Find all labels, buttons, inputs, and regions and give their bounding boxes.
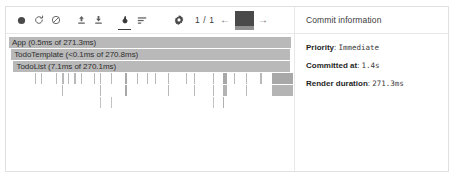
flamegraph-bar-todotemplate[interactable]: TodoTemplate (<0.1ms of 270.8ms) <box>11 49 291 60</box>
gear-icon[interactable] <box>170 9 187 31</box>
next-commit-button[interactable]: → <box>256 9 271 31</box>
flamegraph-bar[interactable] <box>147 85 148 96</box>
flamegraph-bar[interactable] <box>94 73 96 84</box>
flamegraph-bar[interactable] <box>74 85 75 96</box>
devtools-panel: 1 / 1 ← → Commit information App (0.5ms … <box>5 6 449 172</box>
react-devtools-profiler: 1 / 1 ← → Commit information App (0.5ms … <box>0 0 454 178</box>
reload-and-profile-button[interactable] <box>30 9 47 31</box>
flamegraph-bar[interactable] <box>191 85 192 96</box>
flamegraph-bar[interactable] <box>194 73 195 84</box>
flamegraph-bar[interactable] <box>100 73 102 84</box>
flamegraph-row: App (0.5ms of 271.3ms) <box>6 37 294 48</box>
flamegraph-bar[interactable] <box>100 85 101 96</box>
flamegraph-bar[interactable] <box>155 73 157 84</box>
flamegraph-bar[interactable] <box>272 73 294 84</box>
flamegraph-row <box>6 73 294 84</box>
flamegraph-bar[interactable] <box>35 73 37 84</box>
commit-info-key: Render duration <box>306 79 368 88</box>
flamegraph-bar[interactable] <box>41 73 43 84</box>
flamegraph-chart-tab[interactable] <box>116 9 133 31</box>
flamegraph-bar[interactable] <box>68 97 69 108</box>
flamegraph-bar[interactable] <box>213 73 215 84</box>
commit-info-key: Committed at <box>306 61 357 70</box>
toolbar-right-group: Commit information <box>295 7 448 33</box>
flamegraph-bar[interactable] <box>246 73 248 84</box>
flamegraph-bar[interactable] <box>74 73 77 84</box>
flamegraph-bar[interactable] <box>223 73 228 84</box>
ranked-chart-tab[interactable] <box>133 9 150 31</box>
commit-information-panel: Priority: ImmediateCommitted at: 1.4sRen… <box>295 34 448 171</box>
commit-info-value: Immediate <box>338 43 379 52</box>
flamegraph-bar[interactable] <box>68 85 69 96</box>
import-profile-icon[interactable] <box>73 9 90 31</box>
flamegraph-bar[interactable] <box>223 85 228 96</box>
flamegraph-bar[interactable] <box>186 73 188 84</box>
flamegraph-bar[interactable] <box>111 73 113 84</box>
flamegraph-row <box>6 97 294 108</box>
flamegraph-bar[interactable] <box>168 85 169 96</box>
flamegraph-bar[interactable] <box>68 73 70 84</box>
toolbar-left-group: 1 / 1 ← → <box>6 7 295 33</box>
commit-counter: 1 / 1 <box>192 15 218 25</box>
flamegraph-bar[interactable] <box>111 97 112 108</box>
flamegraph-bar[interactable] <box>62 85 63 96</box>
flamegraph-bar[interactable] <box>125 97 126 108</box>
commit-info-row: Priority: Immediate <box>306 43 448 52</box>
previous-commit-button[interactable]: ← <box>218 9 233 31</box>
flamegraph-bar[interactable] <box>56 73 58 84</box>
profiler-body: App (0.5ms of 271.3ms)TodoTemplate (<0.1… <box>6 34 448 171</box>
flamegraph-row: TodoTemplate (<0.1ms of 270.8ms) <box>6 49 294 60</box>
flamegraph-bar-app[interactable]: App (0.5ms of 271.3ms) <box>9 37 292 48</box>
profiler-toolbar: 1 / 1 ← → Commit information <box>6 7 448 34</box>
flamegraph-column: App (0.5ms of 271.3ms)TodoTemplate (<0.1… <box>6 34 295 171</box>
flamegraph-bar[interactable] <box>246 85 247 96</box>
commit-info-value: 1.4s <box>362 61 380 70</box>
commit-snapshot-thumbnail[interactable] <box>235 11 254 30</box>
flamegraph-bar-label: TodoList (7.1ms of 270.1ms) <box>13 61 116 72</box>
flamegraph-bar[interactable] <box>147 97 148 108</box>
flamegraph-bar[interactable] <box>191 73 192 84</box>
flamegraph-bar[interactable] <box>41 85 42 96</box>
record-button[interactable] <box>13 9 30 31</box>
flamegraph-bar-label: TodoTemplate (<0.1ms of 270.8ms) <box>11 49 138 60</box>
flamegraph-bar[interactable] <box>168 97 169 108</box>
flamegraph-bar[interactable] <box>125 73 128 84</box>
commit-info-row: Committed at: 1.4s <box>306 61 448 70</box>
clear-profiling-data-button[interactable] <box>47 9 64 31</box>
flamegraph-bar[interactable] <box>234 73 236 84</box>
flamegraph-bar[interactable] <box>272 85 294 96</box>
flamegraph-bar-label: App (0.5ms of 271.3ms) <box>9 37 96 48</box>
commit-info-column: Priority: ImmediateCommitted at: 1.4sRen… <box>295 34 448 171</box>
commit-info-key: Priority <box>306 43 334 52</box>
flamegraph-bar[interactable] <box>168 73 170 84</box>
export-profile-icon[interactable] <box>90 9 107 31</box>
commit-info-value: 271.3ms <box>372 79 404 88</box>
flamegraph-bar[interactable] <box>62 73 65 84</box>
flamegraph-row: TodoList (7.1ms of 270.1ms) <box>6 61 294 72</box>
flamegraph-bar[interactable] <box>81 85 82 96</box>
commit-information-title: Commit information <box>306 15 382 25</box>
flamegraph-bar[interactable] <box>81 73 83 84</box>
flamegraph-chart[interactable]: App (0.5ms of 271.3ms)TodoTemplate (<0.1… <box>6 34 294 171</box>
flamegraph-bar[interactable] <box>100 97 101 108</box>
flamegraph-bar[interactable] <box>125 85 128 96</box>
flamegraph-bar[interactable] <box>194 85 195 96</box>
flamegraph-bar[interactable] <box>81 97 82 108</box>
flamegraph-bar[interactable] <box>213 97 214 108</box>
flamegraph-bar-todolist[interactable]: TodoList (7.1ms of 270.1ms) <box>13 61 290 72</box>
flamegraph-bar[interactable] <box>213 85 214 96</box>
flamegraph-bar[interactable] <box>137 73 139 84</box>
flamegraph-row <box>6 85 294 96</box>
flamegraph-bar[interactable] <box>260 73 263 84</box>
commit-info-row: Render duration: 271.3ms <box>306 79 448 88</box>
flamegraph-bar[interactable] <box>147 73 149 84</box>
flamegraph-bar[interactable] <box>223 97 225 108</box>
